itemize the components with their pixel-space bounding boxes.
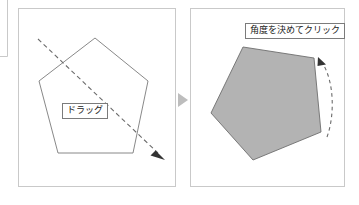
click-angle-label-box: 角度を決めてクリック	[245, 23, 345, 39]
drag-label-text: ドラッグ	[67, 105, 103, 115]
drag-label-box: ドラッグ	[62, 103, 108, 119]
drag-step-panel	[19, 9, 176, 187]
drag-step-panel-border	[19, 9, 176, 187]
click-angle-label-text: 角度を決めてクリック	[250, 25, 340, 35]
